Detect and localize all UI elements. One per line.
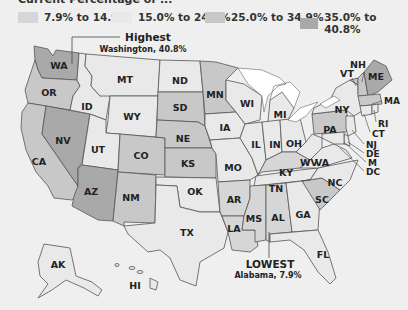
label-mt: MT [117,74,133,85]
label-ca: CA [32,156,47,167]
label-hi: HI [129,280,141,291]
label-ne: NE [176,133,190,144]
label-or: OR [41,87,57,98]
label-ri: RI [378,119,388,129]
label-me: ME [368,71,384,82]
label-il: IL [251,139,261,150]
label-ia: IA [220,122,232,133]
label-oh: OH [286,138,302,149]
state-ri[interactable] [372,104,378,114]
label-dc: DC [366,167,380,177]
label-nh: NH [350,59,366,70]
label-ct: CT [372,129,386,139]
label-ut: UT [91,144,106,155]
us-map: WA OR CA NV ID MT WY UT AZ CO NM ND SD N… [0,0,408,310]
label-co: CO [133,150,148,161]
label-la: LA [227,223,241,234]
label-tn: TN [269,183,283,194]
label-nd: ND [172,75,188,86]
label-ar: AR [227,194,242,205]
label-ny: NY [335,104,350,115]
label-ms: MS [246,213,262,224]
label-ga: GA [295,209,311,220]
label-mo: MO [224,162,242,173]
state-ak[interactable] [38,244,102,298]
lowest-detail: Alabama, 7.9% [234,271,301,280]
label-wv: WV [300,157,318,168]
label-nv: NV [55,135,71,146]
label-ok: OK [187,186,203,197]
label-pa: PA [323,124,337,135]
highest-label: Highest [125,31,171,43]
label-in: IN [269,139,281,150]
label-sd: SD [173,102,188,113]
label-mn: MN [206,89,223,100]
label-nm: NM [122,192,139,203]
label-ak: AK [51,259,66,270]
label-tx: TX [180,227,194,238]
label-ky: KY [279,167,293,178]
label-id: ID [81,101,93,112]
label-az: AZ [84,186,98,197]
label-wi: WI [240,98,254,109]
state-ct[interactable] [360,105,372,116]
label-sc: SC [315,194,329,205]
highest-detail: Washington, 40.8% [99,45,186,54]
label-ma: MA [384,96,400,106]
label-al: AL [271,212,284,223]
label-wy: WY [123,111,140,122]
label-mi: MI [274,109,287,120]
label-fl: FL [317,249,330,260]
lowest-label: LOWEST [246,258,296,270]
label-ks: KS [181,158,195,169]
label-nc: NC [328,177,343,188]
label-wa: WA [50,60,68,71]
